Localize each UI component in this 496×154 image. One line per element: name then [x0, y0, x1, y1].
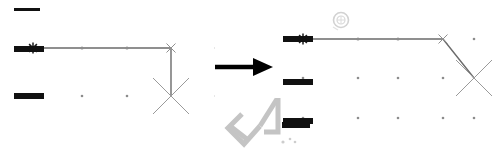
grid-dot — [397, 77, 400, 80]
marker-goal-x — [456, 60, 492, 96]
grid-dot — [357, 117, 360, 120]
grid-dot — [442, 117, 445, 120]
grid-dot — [473, 117, 476, 120]
grid-dot — [302, 77, 305, 80]
bar-middle — [14, 46, 44, 52]
grid-dot — [473, 38, 476, 41]
grid-dot — [357, 77, 360, 80]
after-panel-graphics — [270, 0, 496, 154]
marker-waypoint-2 — [396, 37, 399, 40]
after-panel — [270, 0, 496, 154]
bar-top — [14, 8, 40, 11]
before-panel-graphics — [0, 0, 215, 154]
path-polyline — [33, 48, 171, 95]
figure-canvas — [0, 0, 496, 154]
bar-start — [283, 36, 313, 42]
grid-dot — [397, 117, 400, 120]
marker-waypoint-2 — [125, 46, 128, 49]
path-polyline — [303, 39, 474, 78]
before-panel — [0, 0, 215, 154]
bar-bottom — [14, 93, 44, 99]
grid-dot — [81, 95, 84, 98]
grid-dot — [442, 77, 445, 80]
marker-waypoint-1 — [356, 37, 359, 40]
transition-arrow — [213, 52, 275, 82]
marker-waypoint-1 — [80, 46, 83, 49]
arrow-right-icon — [213, 52, 275, 82]
bar-middle — [283, 79, 313, 85]
grid-dot — [126, 95, 129, 98]
bar-bottom — [283, 118, 313, 124]
